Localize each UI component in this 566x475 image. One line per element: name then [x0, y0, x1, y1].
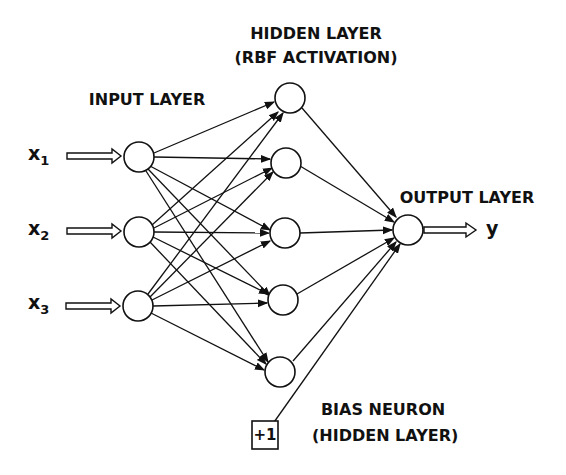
input-var-x3: x3: [28, 291, 49, 317]
output-layer-title: OUTPUT LAYER: [392, 188, 542, 208]
bias-value: +1: [252, 425, 278, 445]
input-var-x1: x1: [28, 142, 49, 168]
input-var-x2: x2: [28, 217, 49, 243]
input-arrow-2: [67, 224, 121, 238]
input-arrow-3: [66, 299, 120, 313]
input-to-hidden-edges: [146, 102, 283, 370]
hidden-node-5: [265, 357, 295, 387]
input-arrow-1: [67, 149, 121, 163]
rbf-network-diagram: [0, 0, 566, 475]
bias-neuron-subtitle: (HIDDEN LAYER): [312, 426, 457, 446]
hidden-layer-subtitle: (RBF ACTIVATION): [226, 48, 406, 68]
input-node-3: [123, 291, 153, 321]
hidden-layer-title: HIDDEN LAYER: [236, 24, 396, 44]
output-node: [393, 215, 423, 245]
input-layer-title: INPUT LAYER: [82, 90, 212, 110]
bias-neuron-title: BIAS NEURON: [318, 400, 448, 420]
output-arrow: [424, 223, 476, 237]
hidden-node-3: [270, 218, 300, 248]
hidden-node-1: [275, 83, 305, 113]
output-var-y: y: [486, 217, 498, 239]
hidden-node-2: [271, 148, 301, 178]
input-node-1: [124, 142, 154, 172]
hidden-node-4: [268, 285, 298, 315]
input-node-2: [124, 217, 154, 247]
